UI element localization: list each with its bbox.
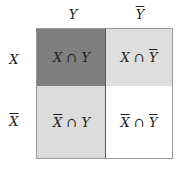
cell-not-x-and-not-y-a: X	[120, 115, 129, 130]
cell-x-and-y: X ∩ Y	[37, 29, 106, 86]
cell-x-and-y-b: Y	[81, 50, 90, 65]
cell-x-and-not-y-a: X	[120, 50, 129, 65]
cell-not-x-and-y: X ∩ Y	[37, 86, 106, 158]
column-header-y: Y	[58, 8, 88, 22]
cell-not-x-and-y-a: X	[53, 115, 62, 130]
cell-not-x-and-y-b: Y	[81, 115, 90, 130]
intersection-symbol: ∩	[130, 115, 149, 130]
cell-not-x-and-not-y: X ∩ Y	[106, 86, 172, 158]
intersection-symbol: ∩	[62, 50, 81, 65]
row-header-x-text: X	[9, 52, 18, 67]
intersection-symbol: ∩	[130, 50, 149, 65]
row-header-not-x: X	[4, 115, 24, 129]
column-header-not-y: Y	[125, 8, 155, 22]
intersection-symbol: ∩	[62, 115, 81, 130]
contingency-grid: X ∩ Y X ∩ Y X ∩ Y X ∩ Y	[36, 28, 173, 159]
row-header-not-x-text: X	[9, 114, 18, 129]
grid-divider-vertical	[105, 29, 106, 158]
cell-x-and-not-y-b: Y	[149, 50, 158, 65]
column-header-y-text: Y	[69, 7, 78, 22]
cell-x-and-not-y: X ∩ Y	[106, 29, 172, 86]
cell-not-x-and-not-y-b: Y	[149, 115, 158, 130]
column-header-not-y-text: Y	[136, 7, 145, 22]
row-header-x: X	[4, 53, 24, 67]
cell-x-and-y-a: X	[53, 50, 62, 65]
